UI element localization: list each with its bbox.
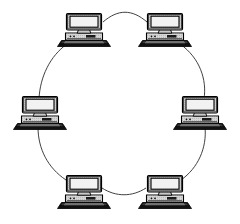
ring-link-lower-left [38, 127, 66, 180]
ring-link-lower-right [181, 127, 205, 180]
desktop-computer-icon [174, 97, 227, 130]
computer-middle-left[interactable] [14, 97, 67, 130]
ring-link-top [103, 12, 147, 22]
ring-nodes-layer [14, 14, 227, 209]
desktop-computer-icon [58, 14, 111, 47]
desktop-computer-icon [58, 176, 111, 209]
desktop-computer-icon [139, 14, 192, 47]
computer-top-right[interactable] [139, 14, 192, 47]
computer-bottom-right[interactable] [139, 176, 192, 209]
computer-top-left[interactable] [58, 14, 111, 47]
computer-bottom-left[interactable] [58, 176, 111, 209]
ring-link-bottom [102, 188, 146, 195]
desktop-computer-icon [139, 176, 192, 209]
computer-middle-right[interactable] [174, 97, 227, 130]
ring-link-upper-left [39, 44, 67, 99]
ring-link-upper-right [180, 44, 205, 99]
ring-network-diagram [0, 0, 240, 224]
diagram-canvas [0, 0, 240, 224]
desktop-computer-icon [14, 97, 67, 130]
